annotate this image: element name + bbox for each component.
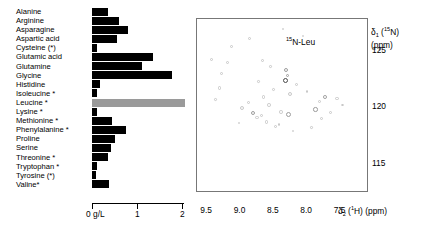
nmr-cross-peak [214, 98, 217, 101]
bar-row [92, 180, 192, 189]
bar [92, 35, 117, 43]
amino-acid-label: Valine* [16, 180, 94, 189]
spectrum-x-tick-label: 8.5 [267, 205, 279, 215]
nmr-cross-peak [261, 59, 264, 62]
nmr-cross-peak [341, 104, 344, 107]
nmr-cross-peak [247, 101, 250, 104]
nmr-cross-peak [262, 95, 265, 98]
nmr-cross-peak [313, 107, 317, 111]
amino-acid-label: Alanine [16, 7, 94, 16]
nmr-cross-peak [267, 103, 271, 107]
amino-acid-label-list: AlanineArginineAsparagineAspartic acidCy… [16, 7, 94, 189]
bar-row [92, 162, 192, 171]
bar [92, 71, 172, 79]
nmr-cross-peak [306, 90, 309, 93]
amino-acid-label: Leucine * [16, 98, 94, 107]
nmr-cross-peak [269, 65, 272, 68]
nmr-cross-peak [284, 68, 288, 72]
annotation-text: N-Leu [292, 37, 315, 47]
nmr-cross-peak [292, 130, 295, 133]
nmr-cross-peak [251, 111, 256, 116]
bar-row [92, 62, 192, 71]
nmr-cross-peak [279, 110, 283, 114]
bar [92, 171, 96, 179]
bar [92, 62, 142, 70]
nmr-cross-peak [286, 74, 290, 78]
spectrum-sample-annotation: 15N-Leu [286, 36, 315, 47]
bar [92, 126, 126, 134]
amino-acid-label: Tryptophan * [16, 162, 94, 171]
amino-acid-label: Isoleucine * [16, 89, 94, 98]
amino-acid-label: Proline [16, 134, 94, 143]
bar-row [92, 107, 192, 116]
amino-acid-label: Asparagine [16, 25, 94, 34]
bar [92, 117, 112, 125]
nmr-cross-peak [320, 117, 323, 120]
nmr-cross-peak [272, 88, 275, 91]
nmr-cross-peak [240, 106, 244, 110]
nmr-cross-peak [220, 72, 223, 75]
nmr-cross-peak [283, 78, 288, 83]
nmr-cross-peak [255, 116, 258, 119]
nmr-cross-peak [218, 86, 221, 89]
nmr-cross-peak [282, 28, 285, 31]
nmr-cross-peak [248, 37, 251, 40]
spectrum-x-tick-label: 9.5 [200, 205, 212, 215]
bar [92, 108, 97, 116]
amino-acid-label: Lysine * [16, 107, 94, 116]
nmr-cross-peak [310, 126, 313, 129]
bar-row [92, 143, 192, 152]
bar-row [92, 89, 192, 98]
bar-row [92, 52, 192, 61]
nmr-cross-peak [265, 120, 268, 123]
bar [92, 144, 111, 152]
amino-acid-label: Threonine * [16, 153, 94, 162]
bar [92, 26, 128, 34]
nmr-cross-peak [210, 58, 213, 61]
bar [92, 135, 115, 143]
bar [92, 17, 119, 25]
bar-row [92, 116, 192, 125]
amino-acid-label: Histidine [16, 80, 94, 89]
bar-row [92, 71, 192, 80]
nmr-cross-peak [230, 45, 233, 48]
figure-container: AlanineArginineAsparagineAspartic acidCy… [0, 0, 426, 232]
bar [92, 89, 97, 97]
bar-row [92, 34, 192, 43]
bar-row [92, 7, 192, 16]
bar-row [92, 16, 192, 25]
nmr-cross-peak [286, 112, 291, 117]
bar [92, 44, 97, 52]
amino-acid-label: Methionine * [16, 116, 94, 125]
bar-axis-tick-label: 1 [135, 209, 140, 219]
amino-acid-label: Serine [16, 143, 94, 152]
nmr-cross-peak [257, 80, 260, 83]
bar-axis-tick-label: 0 g/L [86, 209, 105, 219]
amino-acid-label: Glutamic acid [16, 52, 94, 61]
bar [92, 162, 97, 170]
nmr-cross-peak [288, 92, 292, 96]
bar-row [92, 125, 192, 134]
bar-row [92, 171, 192, 180]
spectrum-y-tick-label: 120 [372, 101, 386, 111]
bar-row [92, 25, 192, 34]
nmr-cross-peak [329, 111, 332, 114]
bar [92, 180, 109, 188]
spectrum-x-axis-title: δ2 (1H) (ppm) [338, 205, 387, 217]
nmr-cross-peak [260, 114, 263, 117]
bar-row [92, 134, 192, 143]
amino-acid-label: Glutamine [16, 62, 94, 71]
spectrum-y-tick-labels: 115120125 [372, 0, 426, 200]
highlighted-bar [92, 99, 185, 107]
nmr-cross-peak [238, 122, 241, 125]
spectrum-x-tick-label: 9.0 [234, 205, 246, 215]
amino-acid-label: Phenylalanine * [16, 125, 94, 134]
amino-acid-label: Arginine [16, 16, 94, 25]
spectrum-x-tick-label: 8.0 [300, 205, 312, 215]
nmr-cross-peak [318, 100, 322, 104]
amino-acid-label: Glycine [16, 71, 94, 80]
amino-acid-label: Tyrosine (*) [16, 171, 94, 180]
bar [92, 153, 108, 161]
bar [92, 53, 153, 61]
nmr-cross-peak [274, 125, 277, 128]
